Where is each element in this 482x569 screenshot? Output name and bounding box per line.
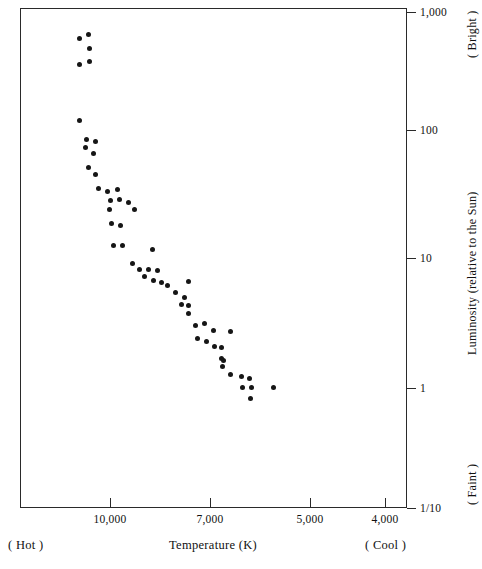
- data-point: [195, 336, 200, 341]
- x-axis-tick: [310, 498, 311, 508]
- data-point: [86, 32, 91, 37]
- bright-annotation: ( Bright ): [465, 10, 480, 58]
- data-point: [146, 267, 151, 272]
- data-point: [86, 165, 91, 170]
- data-point: [77, 36, 82, 41]
- data-point: [132, 207, 137, 212]
- data-point: [151, 278, 156, 283]
- data-point: [211, 328, 216, 333]
- data-point: [155, 268, 160, 273]
- data-point: [83, 145, 88, 150]
- temperature-axis-title: Temperature (K): [169, 538, 257, 553]
- data-point: [165, 283, 170, 288]
- data-point: [126, 200, 131, 205]
- hr-diagram-chart: 1,0001001011/10 10,0007,0005,0004,000 ( …: [0, 0, 482, 569]
- data-point: [186, 303, 191, 308]
- x-axis-tick: [110, 498, 111, 508]
- y-axis-tick: [407, 508, 416, 509]
- y-axis-tick: [407, 12, 416, 13]
- data-point: [130, 261, 135, 266]
- y-axis-tick-label: 100: [420, 124, 438, 136]
- plot-frame: [20, 8, 407, 508]
- data-point: [228, 329, 233, 334]
- x-axis-tick: [385, 498, 386, 508]
- data-point: [219, 345, 224, 350]
- data-point: [107, 207, 112, 212]
- data-point: [105, 189, 110, 194]
- data-point: [248, 396, 253, 401]
- data-point: [77, 118, 82, 123]
- data-point: [91, 151, 96, 156]
- data-point: [249, 385, 254, 390]
- cool-annotation: ( Cool ): [365, 538, 406, 553]
- y-axis-tick: [407, 258, 416, 259]
- data-point: [219, 356, 224, 361]
- data-point: [96, 186, 101, 191]
- hot-annotation: ( Hot ): [8, 538, 43, 553]
- data-point: [271, 385, 276, 390]
- data-point: [142, 274, 147, 279]
- x-axis-tick-label: 5,000: [297, 513, 324, 525]
- y-axis-tick: [407, 388, 416, 389]
- data-point: [220, 364, 225, 369]
- x-axis-tick-label: 4,000: [372, 513, 399, 525]
- x-axis-tick-label: 10,000: [94, 513, 127, 525]
- data-point: [159, 280, 164, 285]
- data-point: [117, 197, 122, 202]
- data-point: [193, 323, 198, 328]
- data-point: [204, 339, 209, 344]
- data-point: [212, 344, 217, 349]
- data-point: [137, 267, 142, 272]
- data-point: [186, 279, 191, 284]
- luminosity-axis-title: Luminosity (relative to the Sun): [465, 191, 480, 355]
- y-axis-tick: [407, 130, 416, 131]
- data-point: [109, 221, 114, 226]
- data-point: [150, 247, 155, 252]
- data-point: [228, 372, 233, 377]
- data-point: [87, 59, 92, 64]
- data-point: [182, 295, 187, 300]
- x-axis-tick: [210, 498, 211, 508]
- data-point: [93, 139, 98, 144]
- faint-annotation: ( Faint ): [465, 464, 480, 505]
- data-point: [179, 302, 184, 307]
- data-point: [115, 187, 120, 192]
- x-axis-tick-label: 7,000: [197, 513, 224, 525]
- y-axis-tick-label: 1/10: [420, 502, 441, 514]
- data-point: [108, 198, 113, 203]
- y-axis-tick-label: 1: [420, 382, 426, 394]
- data-point: [111, 243, 116, 248]
- data-point: [173, 290, 178, 295]
- data-point: [93, 172, 98, 177]
- data-point: [87, 46, 92, 51]
- data-point: [239, 374, 244, 379]
- y-axis-tick-label: 10: [420, 252, 432, 264]
- data-point: [118, 223, 123, 228]
- data-point: [84, 137, 89, 142]
- data-point: [240, 385, 245, 390]
- data-point: [77, 62, 82, 67]
- data-point: [120, 243, 125, 248]
- data-point: [202, 321, 207, 326]
- scatter-plot-area: [21, 9, 406, 507]
- data-point: [186, 311, 191, 316]
- data-point: [247, 376, 252, 381]
- y-axis-tick-label: 1,000: [420, 6, 447, 18]
